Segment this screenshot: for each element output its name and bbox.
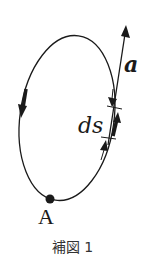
figure-caption: 補図 1 [0,236,145,256]
point-a-dot-icon [46,195,55,204]
loop-diagram: a ds A [0,0,145,267]
direction-arrow-icon [18,89,27,118]
line-element-ds-label: ds [78,113,103,138]
closed-loop-curve [9,29,125,206]
vector-a-label: a [124,51,138,77]
point-a-label: A [38,204,54,229]
vector-a-arrow-icon [108,25,130,145]
